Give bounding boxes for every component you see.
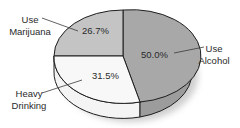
label-marijuana-line1: Use (22, 14, 39, 25)
pct-label-heavy-drinking: 31.5% (92, 70, 119, 81)
label-heavy-drinking-line2: Drinking (12, 100, 47, 111)
pie-chart-svg: 50.0% 26.7% 31.5% Use Marijuana Use Alco… (0, 0, 240, 128)
pct-label-alcohol: 50.0% (141, 49, 168, 60)
label-alcohol-line1: Use (206, 43, 223, 54)
label-heavy-drinking-line1: Heavy (16, 88, 43, 99)
label-marijuana-line2: Marijuana (9, 26, 51, 37)
pie-chart: 50.0% 26.7% 31.5% Use Marijuana Use Alco… (0, 0, 240, 128)
pct-label-marijuana: 26.7% (82, 25, 109, 36)
label-alcohol-line2: Alcohol (198, 55, 229, 66)
